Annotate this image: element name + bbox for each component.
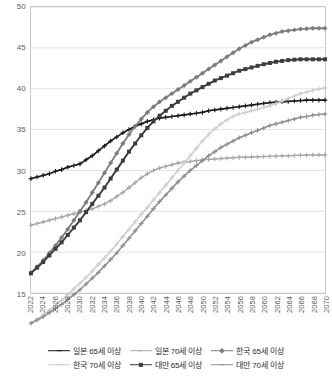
legend-item-3[interactable]: 한국 70세 이상 [48, 359, 120, 370]
series-marker [201, 85, 205, 89]
series-marker [103, 186, 107, 190]
series-marker [60, 240, 64, 244]
legend-swatch-icon [211, 346, 233, 355]
series-marker [255, 107, 260, 112]
series-marker [225, 156, 230, 161]
series-marker [243, 110, 248, 115]
series-marker [65, 213, 70, 218]
legend-item-4[interactable]: 대만 65세 이상 [130, 359, 202, 370]
y-axis-tick-label: 15 [17, 290, 26, 299]
x-axis-tick-label: 2036 [112, 296, 121, 313]
series-marker [316, 26, 321, 31]
series-marker [261, 101, 266, 106]
series-marker [170, 114, 175, 119]
series-marker [311, 57, 315, 61]
series-marker [255, 37, 260, 42]
series-marker [255, 102, 260, 107]
series-marker [280, 59, 284, 63]
series-marker [152, 119, 156, 123]
series-marker [59, 215, 64, 220]
series-marker [286, 118, 291, 123]
series-marker [261, 105, 266, 110]
series-marker [298, 91, 303, 96]
series-marker [219, 156, 224, 161]
x-axis-tick-label: 2032 [88, 296, 97, 313]
y-axis-tick-label: 35 [17, 125, 26, 134]
series-marker [304, 98, 309, 103]
series-marker [243, 67, 247, 71]
series-marker [292, 27, 297, 32]
x-axis-tick-label: 2054 [223, 296, 232, 313]
legend-label: 일본 70세 이상 [155, 345, 202, 356]
series-marker [96, 194, 100, 198]
series-line [31, 28, 325, 272]
series-marker [53, 216, 58, 221]
series-marker [317, 153, 322, 158]
series-2 [29, 26, 328, 275]
series-marker [237, 104, 242, 109]
series-marker [298, 98, 303, 103]
series-marker [298, 115, 303, 120]
series-marker [41, 220, 46, 225]
x-axis-tick-label: 2034 [100, 296, 109, 313]
x-axis-tick-label: 2048 [186, 296, 195, 313]
series-marker [29, 176, 34, 181]
series-marker [292, 94, 297, 99]
series-marker [268, 61, 272, 65]
legend-label: 대만 70세 이상 [236, 359, 283, 370]
series-marker [225, 106, 230, 111]
series-marker [274, 31, 279, 36]
series-marker [255, 154, 260, 159]
series-marker [121, 159, 125, 163]
x-axis-tick-label: 2056 [236, 296, 245, 313]
series-marker [317, 87, 322, 92]
series-marker [310, 98, 315, 103]
series-marker [298, 153, 303, 158]
y-axis-tick-label: 20 [17, 248, 26, 257]
legend-swatch-icon [130, 346, 152, 355]
x-axis: 2022202420262028203020322034203620382040… [30, 296, 326, 340]
series-marker [317, 112, 322, 117]
legend-swatch-icon [211, 360, 233, 369]
y-axis-tick-label: 25 [17, 207, 26, 216]
y-axis-tick-label: 50 [17, 2, 26, 11]
series-marker [41, 173, 46, 178]
legend-row: 일본 65세 이상일본 70세 이상한국 65세 이상 [48, 345, 283, 356]
legend-label: 대만 65세 이상 [155, 359, 202, 370]
series-marker [310, 113, 315, 118]
x-axis-tick-label: 2062 [273, 296, 282, 313]
series-marker [249, 103, 254, 108]
series-marker [176, 161, 181, 166]
series-marker [170, 104, 174, 108]
series-marker [213, 79, 217, 83]
series-marker [115, 168, 119, 172]
series-marker [237, 155, 242, 160]
series-marker [261, 126, 266, 131]
legend-swatch-icon [130, 360, 152, 369]
series-marker [212, 108, 217, 113]
x-axis-tick-label: 2042 [149, 296, 158, 313]
series-marker [35, 175, 40, 180]
series-marker [298, 27, 303, 32]
series-marker [72, 211, 77, 216]
series-marker [323, 26, 328, 31]
series-line [31, 100, 325, 178]
series-marker [176, 113, 181, 118]
series-layer [31, 7, 325, 293]
series-marker [176, 100, 180, 104]
series-marker [72, 163, 77, 168]
series-marker [200, 110, 205, 115]
legend-label: 한국 70세 이상 [73, 359, 120, 370]
series-marker [268, 123, 273, 128]
series-marker [133, 141, 137, 145]
legend-item-2[interactable]: 한국 65세 이상 [211, 345, 283, 356]
x-axis-tick-label: 2070 [322, 296, 331, 313]
legend-item-1[interactable]: 일본 70세 이상 [130, 345, 202, 356]
x-axis-tick-label: 2022 [26, 296, 35, 313]
legend-item-0[interactable]: 일본 65세 이상 [48, 345, 120, 356]
x-axis-tick-label: 2030 [75, 296, 84, 313]
series-marker [317, 57, 321, 61]
legend-item-5[interactable]: 대만 70세 이상 [211, 359, 283, 370]
x-axis-tick-label: 2028 [63, 296, 72, 313]
series-marker [274, 60, 278, 64]
